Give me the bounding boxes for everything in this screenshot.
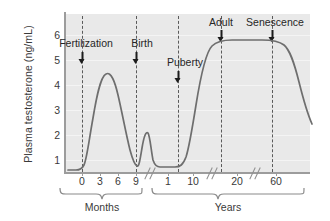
group-label-years: Years <box>215 202 241 213</box>
group-label-months: Months <box>85 202 119 213</box>
axis-group-brackets <box>0 186 330 206</box>
testosterone-lifespan-chart: Plasma testosterone (ng/mL) 6 5 4 3 2 1 … <box>0 0 330 221</box>
